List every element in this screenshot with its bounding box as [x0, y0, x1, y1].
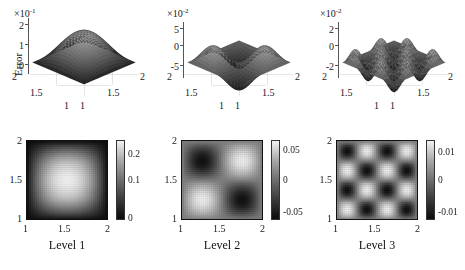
- z-axis-line-1: [28, 18, 29, 74]
- hm2-y-tick-2: 1: [159, 214, 177, 224]
- caption-level-2: Level 2: [181, 238, 263, 253]
- x-tick-2-2: 1: [219, 101, 224, 111]
- x-tick-3-0: 2: [322, 72, 327, 82]
- hm2-y-tick-0: 2: [159, 136, 177, 146]
- hm3-x-tick-0: 1: [333, 224, 338, 234]
- y-tick-1-2: 2: [140, 72, 145, 82]
- surface-canvas-1: [28, 12, 140, 96]
- hm2-x-tick-2: 2: [260, 224, 265, 234]
- z-tickmark-1-0: [25, 24, 29, 25]
- hm1-x-tick-0: 1: [23, 224, 28, 234]
- cbar2-tick-1: 0: [283, 176, 288, 186]
- hm3-y-tick-1: 1.5: [310, 175, 332, 185]
- hm1-y-tick-1: 1.5: [0, 175, 22, 185]
- z-tickmark-2-2: [180, 65, 184, 66]
- surface-panel-level-2: ×10-2 5 0 -5 2 1.5 1 1 1.5 2: [155, 0, 305, 120]
- z-tickmark-3-0: [335, 28, 339, 29]
- cbar1-tick-0: 0.2: [128, 150, 140, 160]
- surface-panel-level-1: ×10-1 Error 2 1 0 2 1.5 1 1 1.5 2: [0, 0, 150, 120]
- heatmap-panel-level-1: 2 1.5 1 1 1.5 2 0.2 0.1 0 Level 1: [0, 132, 150, 267]
- heatmap-canvas-box-3[interactable]: [336, 140, 418, 220]
- cbar3-tick-1: 0: [438, 176, 443, 186]
- hm2-x-tick-1: 1.5: [213, 224, 226, 234]
- z-tick-1-0: 2: [8, 21, 24, 31]
- y-tick-2-0: 1: [235, 101, 240, 111]
- x-tick-1-2: 1: [64, 101, 69, 111]
- hm2-y-tick-1: 1.5: [155, 175, 177, 185]
- hm3-x-tick-1: 1.5: [368, 224, 381, 234]
- z-tick-1-1: 1: [8, 41, 24, 51]
- colorbar-1[interactable]: [116, 140, 125, 220]
- hm1-y-tick-0: 2: [4, 136, 22, 146]
- y-tick-1-0: 1: [80, 101, 85, 111]
- cbar1-tick-1: 0.1: [128, 176, 140, 186]
- surface-canvas-2: [183, 12, 295, 96]
- caption-level-1: Level 1: [26, 238, 108, 253]
- heatmap-canvas-2: [182, 141, 262, 219]
- x-tick-3-2: 1: [374, 101, 379, 111]
- heatmap-panel-level-3: 2 1.5 1 1 1.5 2 0.01 0 -0.01 Level 3: [310, 132, 460, 267]
- colorbar-3[interactable]: [426, 140, 435, 220]
- z-tick-1-2: 0: [8, 61, 24, 71]
- surface-panel-level-3: ×10-2 2 0 -2 2 1.5 1 1 1.5 2: [310, 0, 460, 120]
- z-tick-2-1: 0: [163, 42, 179, 52]
- figure-root: ×10-1 Error 2 1 0 2 1.5 1 1 1.5 2 ×10-2 …: [0, 0, 465, 270]
- z-tick-2-0: 5: [163, 25, 179, 35]
- z-tickmark-1-1: [25, 44, 29, 45]
- hm2-x-tick-0: 1: [178, 224, 183, 234]
- axes-box-2: [183, 12, 295, 96]
- hm3-y-tick-2: 1: [314, 214, 332, 224]
- heatmap-canvas-box-1[interactable]: [26, 140, 108, 220]
- z-axis-line-3: [338, 22, 339, 78]
- hm1-x-tick-2: 2: [105, 224, 110, 234]
- hm1-y-tick-2: 1: [4, 214, 22, 224]
- x-tick-1-0: 2: [12, 72, 17, 82]
- z-tick-3-0: 2: [318, 25, 334, 35]
- cbar2-tick-2: -0.05: [283, 208, 303, 218]
- cbar3-tick-0: 0.01: [438, 148, 455, 158]
- heatmap-panel-level-2: 2 1.5 1 1 1.5 2 0.05 0 -0.05 Level 2: [155, 132, 305, 267]
- surface-canvas-3: [338, 12, 450, 96]
- axes-box-3: [338, 12, 450, 96]
- hm3-y-tick-0: 2: [314, 136, 332, 146]
- z-axis-line-2: [183, 22, 184, 78]
- axes-box-1: [28, 12, 140, 96]
- heatmap-canvas-3: [337, 141, 417, 219]
- y-tick-2-2: 2: [295, 72, 300, 82]
- x-tick-2-0: 2: [167, 72, 172, 82]
- cbar1-tick-2: 0: [128, 214, 133, 224]
- z-tickmark-2-1: [180, 45, 184, 46]
- hm1-x-tick-1: 1.5: [58, 224, 71, 234]
- z-tickmark-2-0: [180, 28, 184, 29]
- z-tickmark-1-2: [25, 64, 29, 65]
- z-tickmark-3-2: [335, 65, 339, 66]
- colorbar-2[interactable]: [271, 140, 280, 220]
- hm3-x-tick-2: 2: [415, 224, 420, 234]
- z-tick-3-1: 0: [318, 42, 334, 52]
- cbar3-tick-2: -0.01: [438, 208, 458, 218]
- cbar2-tick-0: 0.05: [283, 146, 300, 156]
- y-tick-3-0: 1: [390, 101, 395, 111]
- z-tickmark-3-1: [335, 45, 339, 46]
- caption-level-3: Level 3: [336, 238, 418, 253]
- heatmap-canvas-1: [27, 141, 107, 219]
- heatmap-canvas-box-2[interactable]: [181, 140, 263, 220]
